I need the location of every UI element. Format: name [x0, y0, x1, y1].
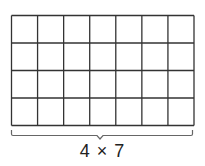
grid-cell — [64, 98, 90, 126]
array-grid — [12, 16, 195, 126]
grid-cell — [142, 43, 168, 71]
grid-cell — [142, 71, 168, 99]
grid-cell — [90, 16, 116, 44]
grid-cell — [116, 71, 142, 99]
grid-cell — [168, 43, 194, 71]
grid-cell — [168, 16, 194, 44]
grid-cell — [90, 71, 116, 99]
grid-cell — [168, 98, 194, 126]
grid-cell — [12, 98, 38, 126]
grid-cell — [38, 16, 64, 44]
grid-cell — [12, 43, 38, 71]
grid-cell — [12, 16, 38, 44]
grid-cell — [64, 71, 90, 99]
bottom-brace — [12, 130, 193, 139]
grid-cell — [38, 71, 64, 99]
grid-cell — [116, 98, 142, 126]
grid-cell — [90, 43, 116, 71]
grid-cell — [38, 98, 64, 126]
grid-cell — [64, 16, 90, 44]
grid-cell — [12, 71, 38, 99]
grid-cell — [168, 71, 194, 99]
grid-cell — [116, 16, 142, 44]
array-dimension-label: 4 × 7 — [0, 141, 205, 162]
grid-cell — [142, 16, 168, 44]
grid-cell — [38, 43, 64, 71]
grid-cell — [116, 43, 142, 71]
grid-cell — [142, 98, 168, 126]
grid-cell — [64, 43, 90, 71]
grid-cell — [90, 98, 116, 126]
